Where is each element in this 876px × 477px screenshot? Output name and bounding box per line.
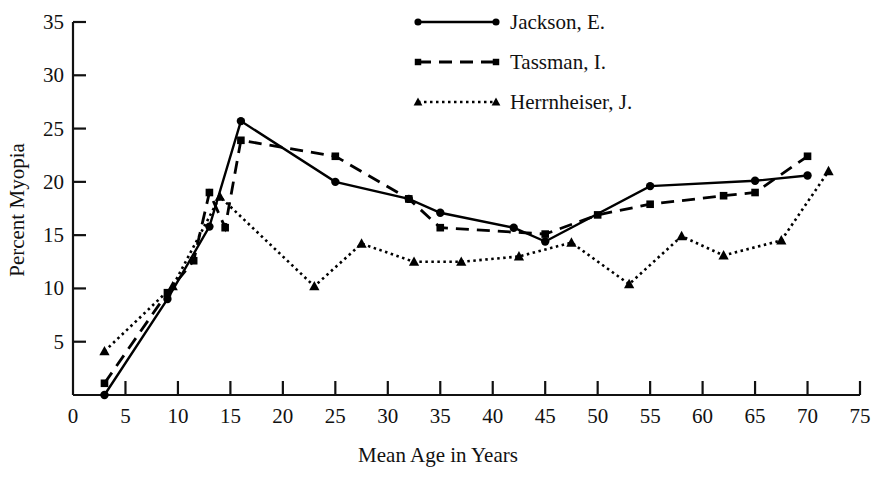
legend-marker-sample: [493, 59, 499, 65]
data-point-marker: [237, 136, 245, 144]
y-axis-tick-label: 30: [43, 63, 64, 87]
x-axis-tick-label: 50: [587, 404, 608, 428]
legend-label: Tassman, I.: [510, 50, 606, 74]
chart-legend: Jackson, E.Tassman, I.Herrnheiser, J.: [414, 10, 633, 114]
legend-marker-sample: [492, 97, 501, 105]
y-axis-title: Percent Myopia: [5, 143, 29, 277]
data-point-marker: [541, 230, 549, 238]
data-point-marker: [332, 152, 340, 160]
data-point-marker: [803, 171, 811, 179]
data-point-marker: [646, 182, 654, 190]
x-axis-tick-label: 5: [120, 404, 131, 428]
series-line: [104, 121, 807, 395]
data-point-marker: [594, 211, 602, 219]
x-axis: 051015202530354045505560657075: [68, 381, 871, 428]
x-axis-tick-label: 0: [68, 404, 79, 428]
data-point-marker: [221, 224, 229, 232]
legend-label: Herrnheiser, J.: [510, 90, 632, 114]
x-axis-tick-label: 30: [377, 404, 398, 428]
x-axis-tick-label: 75: [850, 404, 871, 428]
data-point-marker: [190, 257, 198, 265]
y-axis-tick-label: 25: [43, 117, 64, 141]
data-point-marker: [100, 391, 108, 399]
x-axis-tick-label: 10: [167, 404, 188, 428]
data-series-group: [99, 117, 833, 399]
x-axis-tick-label: 25: [325, 404, 346, 428]
data-point-marker: [436, 224, 444, 232]
data-point-marker: [718, 250, 728, 259]
data-point-marker: [331, 178, 339, 186]
y-axis-tick-label: 20: [43, 170, 64, 194]
y-axis-tick-label: 35: [43, 10, 64, 34]
legend-marker-sample: [414, 97, 423, 105]
x-axis-title: Mean Age in Years: [358, 443, 518, 467]
data-point-marker: [215, 191, 225, 200]
x-axis-tick-label: 45: [535, 404, 556, 428]
data-point-marker: [646, 200, 654, 208]
data-point-marker: [206, 189, 214, 197]
x-axis-tick-label: 55: [640, 404, 661, 428]
legend-marker-sample: [414, 18, 421, 25]
y-axis-tick-label: 10: [43, 276, 64, 300]
series-jackson-e: [100, 117, 811, 399]
x-axis-tick-label: 35: [430, 404, 451, 428]
data-point-marker: [804, 152, 812, 160]
data-point-marker: [237, 117, 245, 125]
x-axis-tick-label: 15: [220, 404, 241, 428]
data-point-marker: [751, 177, 759, 185]
x-axis-tick-label: 60: [692, 404, 713, 428]
x-axis-tick-label: 70: [797, 404, 818, 428]
data-point-marker: [101, 379, 109, 387]
data-point-marker: [205, 222, 213, 230]
data-point-marker: [720, 192, 728, 200]
chart-canvas: 5101520253035 05101520253035404550556065…: [0, 0, 876, 477]
y-axis: 5101520253035: [43, 10, 86, 395]
data-point-marker: [751, 189, 759, 197]
y-axis-tick-label: 15: [43, 223, 64, 247]
x-axis-tick-label: 20: [272, 404, 293, 428]
myopia-percent-by-age-chart: 5101520253035 05101520253035404550556065…: [0, 0, 876, 477]
data-point-marker: [436, 209, 444, 217]
legend-item-jackson-e: Jackson, E.: [414, 10, 605, 34]
data-point-marker: [776, 235, 786, 244]
data-point-marker: [356, 238, 366, 247]
legend-marker-sample: [415, 59, 421, 65]
x-axis-tick-label: 65: [745, 404, 766, 428]
y-axis-tick-label: 5: [54, 330, 65, 354]
x-axis-tick-label: 40: [482, 404, 503, 428]
legend-item-tassman-i: Tassman, I.: [415, 50, 606, 74]
data-point-marker: [676, 231, 686, 240]
data-point-marker: [99, 346, 109, 355]
legend-marker-sample: [492, 18, 499, 25]
legend-label: Jackson, E.: [510, 10, 605, 34]
data-point-marker: [566, 237, 576, 246]
data-point-marker: [624, 279, 634, 288]
data-point-marker: [405, 195, 413, 203]
data-point-marker: [409, 256, 419, 265]
data-point-marker: [823, 166, 833, 175]
data-point-marker: [541, 237, 549, 245]
legend-item-herrnheiser-j: Herrnheiser, J.: [414, 90, 633, 114]
